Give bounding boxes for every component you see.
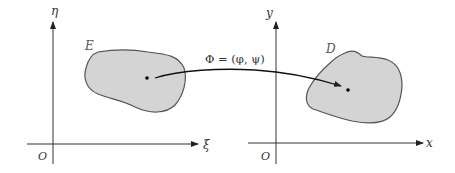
region-e: [85, 50, 185, 112]
region-d-label: D: [325, 42, 336, 56]
mapping-label: Φ = (φ, ψ): [205, 52, 265, 66]
point-in-d: [346, 88, 350, 92]
eta-axis-label: η: [51, 4, 59, 18]
right-plane: y x O D: [248, 6, 433, 164]
xi-axis-label: ξ: [203, 138, 211, 152]
left-origin-label: O: [38, 150, 47, 163]
point-in-e: [145, 76, 149, 80]
mapping-diagram: η ξ O E y x O D Φ = (φ, ψ): [0, 0, 455, 173]
left-plane: η ξ O E: [27, 4, 211, 164]
region-d: [306, 51, 402, 123]
right-origin-label: O: [261, 150, 270, 163]
region-e-label: E: [84, 39, 94, 53]
y-axis-label: y: [265, 6, 273, 20]
x-axis-label: x: [426, 136, 433, 150]
